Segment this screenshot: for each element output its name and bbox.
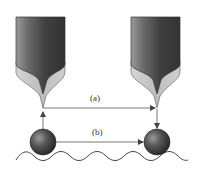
probe-tip-start xyxy=(16,17,65,108)
particle-end xyxy=(144,129,170,155)
probe-tip-end xyxy=(131,17,180,108)
probe-manipulation-diagram: (a) (b) xyxy=(0,0,202,172)
particle-start xyxy=(30,129,56,155)
label-a: (a) xyxy=(90,93,100,103)
label-b: (b) xyxy=(92,127,103,137)
